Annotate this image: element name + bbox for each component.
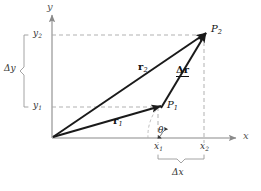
- x-tick-label-x1: x1: [154, 142, 163, 152]
- brace-delta-y: [20, 35, 28, 107]
- brace-label-delta-y: Δy: [4, 64, 16, 73]
- vector-label-r2: r2: [138, 62, 148, 73]
- y-tick-label-y1: y1: [33, 101, 42, 111]
- brace-delta-x: [158, 155, 204, 163]
- point-label-p2: P2: [211, 24, 222, 35]
- x-axis-label: x: [243, 131, 249, 141]
- dashed-guide-lines: [52, 35, 204, 143]
- y-axis-label: y: [47, 2, 53, 12]
- y-tick-label-y2: y2: [33, 29, 42, 39]
- theta-angle-label: θ: [158, 126, 163, 135]
- brace-label-delta-x: Δx: [172, 168, 184, 177]
- vector-r1: [53, 106, 161, 137]
- point-label-p1: P1: [167, 100, 178, 111]
- vector-diagram-figure: y x y2 y1 x1 x2 P2 P1 r2 r1 Δr Δy Δx θ: [0, 0, 261, 191]
- vector-label-r1: r1: [113, 116, 123, 127]
- vector-arrows: [53, 33, 206, 137]
- x-tick-label-x2: x2: [200, 142, 209, 152]
- vector-label-delta-r: Δr: [176, 65, 189, 77]
- vector-r2: [53, 33, 206, 137]
